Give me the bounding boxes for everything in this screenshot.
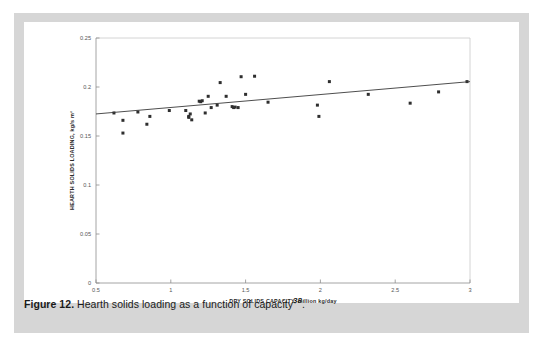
figure-white-panel [24, 22, 519, 303]
figure-caption: Figure 12. Hearth solids loading as a fu… [24, 296, 305, 310]
figure-caption-label: Figure 12. [24, 298, 74, 310]
figure-caption-reference: 38 [293, 296, 302, 305]
figure-caption-period: . [302, 298, 305, 310]
figure-caption-text: Hearth solids loading as a function of c… [74, 298, 293, 310]
figure-page-frame [14, 13, 529, 333]
